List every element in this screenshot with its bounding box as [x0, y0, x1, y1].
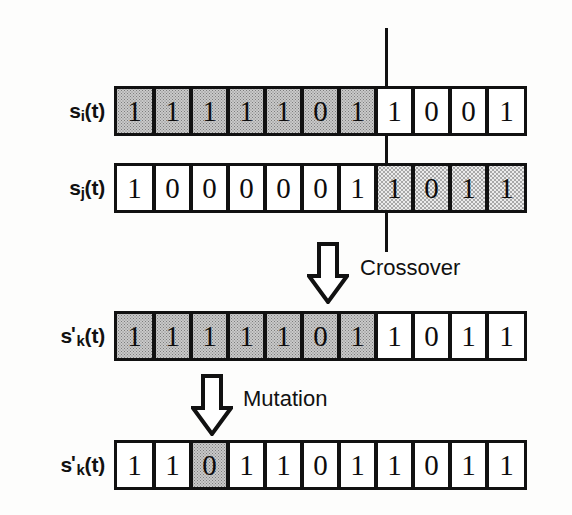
gene-cell: 0: [302, 89, 339, 133]
gene-cell: 1: [154, 89, 191, 133]
diagram-canvas: si(t)11111011001sj(t)10000011011s'k(t)11…: [0, 0, 572, 515]
gene-cell: 1: [228, 443, 265, 487]
label-subscript: k: [76, 332, 84, 349]
label-prime: ': [71, 323, 76, 345]
operator-label-crossover: Crossover: [360, 255, 460, 281]
gene-cell: 0: [302, 314, 339, 358]
gene-cell: 0: [302, 443, 339, 487]
gene-cell: 1: [265, 314, 302, 358]
gene-cell: 1: [450, 314, 487, 358]
gene-cell: 1: [487, 314, 524, 358]
label-time-arg: (t): [85, 453, 105, 476]
gene-cell: 1: [265, 443, 302, 487]
gene-cell: 1: [339, 89, 376, 133]
gene-cell: 0: [265, 166, 302, 210]
gene-cell: 1: [339, 314, 376, 358]
gene-cell: 1: [117, 314, 154, 358]
gene-cell: 0: [450, 89, 487, 133]
gene-strip-offspring-crossover: 11111011011: [114, 311, 527, 361]
gene-cell: 1: [228, 314, 265, 358]
gene-cell: 1: [154, 314, 191, 358]
gene-cell: 1: [376, 166, 413, 210]
gene-cell: 1: [191, 89, 228, 133]
gene-strip-parent-1: 11111011001: [114, 86, 527, 136]
gene-strip-offspring-mutated: 11011011011: [114, 440, 527, 490]
gene-strip-parent-2: 10000011011: [114, 163, 527, 213]
label-time-arg: (t): [85, 324, 105, 347]
chromosome-row-parent-2: sj(t)10000011011: [27, 163, 527, 213]
gene-cell: 0: [228, 166, 265, 210]
gene-cell: 1: [450, 443, 487, 487]
gene-cell: 1: [450, 166, 487, 210]
gene-cell: 1: [376, 443, 413, 487]
gene-cell: 0: [413, 166, 450, 210]
chromosome-row-offspring-crossover: s'k(t)11111011011: [27, 311, 527, 361]
label-symbol: s: [69, 99, 80, 122]
operator-label-mutation: Mutation: [243, 386, 327, 412]
gene-cell: 0: [302, 166, 339, 210]
gene-cell: 0: [413, 89, 450, 133]
label-time-arg: (t): [85, 99, 105, 122]
gene-cell: 1: [487, 89, 524, 133]
gene-cell: 1: [154, 443, 191, 487]
gene-cell: 1: [228, 89, 265, 133]
chromosome-row-offspring-mutated: s'k(t)11011011011: [27, 440, 527, 490]
gene-cell: 1: [487, 166, 524, 210]
gene-cell: 1: [117, 166, 154, 210]
chromosome-label-offspring-mutated: s'k(t): [27, 453, 114, 477]
gene-cell: 1: [376, 314, 413, 358]
gene-cell: 0: [413, 443, 450, 487]
gene-cell: 1: [117, 89, 154, 133]
gene-cell: 1: [376, 89, 413, 133]
gene-cell: 0: [191, 443, 228, 487]
gene-cell: 1: [339, 443, 376, 487]
gene-cell: 1: [265, 89, 302, 133]
crossover-arrow-down-icon: [307, 242, 349, 308]
label-time-arg: (t): [85, 176, 105, 199]
label-subscript: j: [81, 184, 85, 201]
gene-cell: 0: [413, 314, 450, 358]
label-prime: ': [71, 452, 76, 474]
mutation-arrow-down-icon: [191, 374, 233, 440]
chromosome-label-parent-1: si(t): [27, 99, 114, 123]
gene-cell: 0: [191, 166, 228, 210]
gene-cell: 1: [487, 443, 524, 487]
chromosome-row-parent-1: si(t)11111011001: [27, 86, 527, 136]
label-subscript: k: [76, 461, 84, 478]
label-symbol: s: [69, 176, 80, 199]
gene-cell: 1: [191, 314, 228, 358]
chromosome-label-parent-2: sj(t): [27, 176, 114, 200]
gene-cell: 1: [117, 443, 154, 487]
chromosome-label-offspring-crossover: s'k(t): [27, 324, 114, 348]
crossover-point-line: [385, 28, 388, 252]
gene-cell: 1: [339, 166, 376, 210]
gene-cell: 0: [154, 166, 191, 210]
label-subscript: i: [81, 107, 85, 124]
